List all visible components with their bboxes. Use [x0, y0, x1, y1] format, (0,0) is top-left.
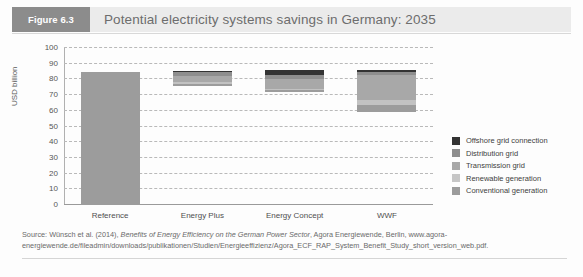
- chart-container: USD billion 0102030405060708090100 Refer…: [12, 42, 437, 227]
- bar-group[interactable]: Energy Concept: [249, 48, 341, 205]
- x-tick-label: Reference: [64, 211, 156, 220]
- source-note: Source: Wünsch et al. (2014), Benefits o…: [22, 229, 567, 251]
- y-tick-label: 0: [54, 201, 58, 209]
- legend-swatch-icon: [452, 187, 460, 195]
- figure-title-band: Potential electricity systems savings in…: [90, 7, 571, 32]
- bar-stack[interactable]: [357, 48, 416, 205]
- y-tick-label: 10: [49, 185, 58, 193]
- legend-item-label: Conventional generation: [466, 186, 547, 195]
- y-tick-label: 70: [49, 91, 58, 99]
- legend-item[interactable]: Transmission grid: [452, 161, 580, 170]
- y-tick-label: 30: [49, 154, 58, 162]
- bar-stack[interactable]: [81, 48, 140, 205]
- x-tick-label: WWF: [341, 211, 433, 220]
- figure-header: Figure 6.3 Potential electricity systems…: [12, 7, 571, 32]
- bar-segment[interactable]: [265, 90, 324, 92]
- footer-divider: [22, 258, 567, 259]
- legend-item[interactable]: Distribution grid: [452, 149, 580, 158]
- bar-stack[interactable]: [173, 48, 232, 205]
- legend-item[interactable]: Renewable generation: [452, 174, 580, 183]
- plot-area: 0102030405060708090100 ReferenceEnergy P…: [64, 48, 433, 205]
- bar-stack[interactable]: [265, 48, 324, 205]
- bar-segment[interactable]: [357, 75, 416, 100]
- legend-swatch-icon: [452, 162, 460, 170]
- bar-group[interactable]: WWF: [341, 48, 433, 205]
- bar-series-group: ReferenceEnergy PlusEnergy ConceptWWF: [64, 48, 433, 205]
- y-tick-label: 90: [49, 60, 58, 68]
- legend-swatch-icon: [452, 174, 460, 182]
- y-axis-label: USD billion: [10, 66, 19, 106]
- y-tick-label: 50: [49, 123, 58, 131]
- legend-item-label: Offshore grid connection: [466, 136, 548, 145]
- bar-group[interactable]: Energy Plus: [156, 48, 248, 205]
- y-tick-label: 60: [49, 107, 58, 115]
- x-tick-label: Energy Concept: [249, 211, 341, 220]
- legend-item-label: Renewable generation: [466, 174, 541, 183]
- y-tick-label: 20: [49, 170, 58, 178]
- y-tick-label: 40: [49, 138, 58, 146]
- legend-swatch-icon: [452, 137, 460, 145]
- source-title: Benefits of Energy Efficiency on the Ger…: [121, 230, 310, 239]
- y-tick-label: 100: [45, 44, 58, 52]
- legend-item[interactable]: Conventional generation: [452, 186, 580, 195]
- bar-segment[interactable]: [173, 84, 232, 86]
- y-tick-label: 80: [49, 75, 58, 83]
- header-divider: [12, 33, 571, 34]
- chart-legend: Offshore grid connectionDistribution gri…: [452, 136, 580, 199]
- bar-segment[interactable]: [357, 105, 416, 112]
- figure-page: Figure 6.3 Potential electricity systems…: [0, 0, 583, 277]
- bar-segment[interactable]: [265, 79, 324, 88]
- x-tick-label: Energy Plus: [156, 211, 248, 220]
- bar-segment[interactable]: [81, 72, 140, 205]
- legend-item[interactable]: Offshore grid connection: [452, 136, 580, 145]
- bar-group[interactable]: Reference: [64, 48, 156, 205]
- figure-number-badge: Figure 6.3: [12, 7, 90, 32]
- page-title: Potential electricity systems savings in…: [104, 12, 436, 27]
- source-prefix: Source: Wünsch et al. (2014),: [22, 230, 121, 239]
- legend-swatch-icon: [452, 149, 460, 157]
- legend-item-label: Distribution grid: [466, 149, 518, 158]
- legend-item-label: Transmission grid: [466, 161, 525, 170]
